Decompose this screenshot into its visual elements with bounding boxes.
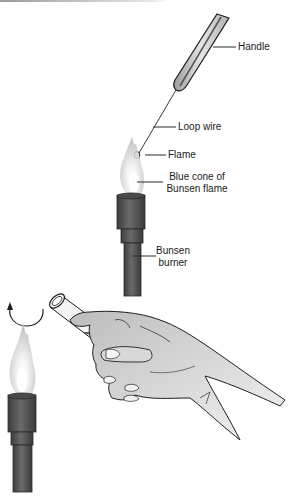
blue-cone — [129, 173, 139, 193]
label-flame: Flame — [168, 149, 196, 161]
label-blue-cone: Blue cone of Bunsen flame — [166, 171, 228, 195]
label-bunsen-burner-line1: Bunsen — [156, 245, 190, 257]
diagram-canvas — [0, 0, 296, 500]
flame-bottom — [10, 322, 36, 396]
loop-wire — [139, 90, 176, 153]
loop-handle — [174, 14, 229, 91]
label-handle: Handle — [238, 41, 270, 53]
inoculating-loop — [134, 14, 229, 158]
label-blue-cone-line2: Bunsen flame — [166, 183, 228, 195]
bunsen-burner-top — [117, 193, 145, 296]
blue-cone-bottom — [17, 368, 28, 392]
label-loop-wire: Loop wire — [178, 121, 221, 133]
label-blue-cone-line1: Blue cone of — [166, 171, 228, 183]
rotation-arrow — [7, 302, 43, 326]
label-bunsen-burner: Bunsen burner — [156, 245, 190, 269]
flame-top — [120, 136, 144, 196]
label-bunsen-burner-line2: burner — [156, 257, 190, 269]
hand — [70, 311, 285, 440]
bunsen-burner-bottom — [8, 393, 36, 492]
